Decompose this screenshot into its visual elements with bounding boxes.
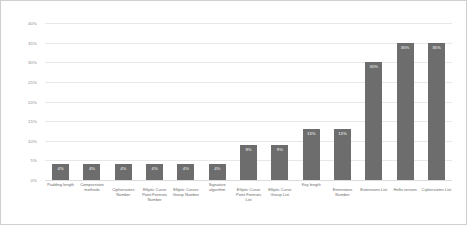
y-axis-tick-label: 30% [28,60,37,65]
bar-slot: 4% [76,23,107,180]
bar-slot: 9% [233,23,264,180]
x-axis-tick-label: Compression methods [76,182,107,218]
bar[interactable]: 4% [52,164,69,180]
bar[interactable]: 30% [365,62,382,180]
bar-value-label: 13% [338,132,347,136]
x-axis-tick-label: Signature algorithm [202,182,233,218]
bar[interactable]: 9% [240,145,257,180]
x-axis-tick-label: Hello version [389,182,420,218]
bar-value-label: 35% [401,46,410,50]
bar-series: 4%4%4%4%4%4%9%9%13%13%30%35%35% [45,23,452,180]
x-axis-category-labels: Padding lengthCompression methodsCiphers… [45,182,452,218]
bar[interactable]: 4% [146,164,163,180]
bar-chart: 0%5%10%15%20%25%30%35%40% 4%4%4%4%4%4%9%… [0,0,467,225]
gridline [45,180,452,181]
bar[interactable]: 13% [303,129,320,180]
x-axis-tick-label: Elliptic Curve Point Formats Number [139,182,170,218]
bar-value-label: 9% [277,148,283,152]
bar-slot: 13% [327,23,358,180]
bar-value-label: 4% [89,167,95,171]
bar-slot: 35% [389,23,420,180]
bar-value-label: 4% [183,167,189,171]
bar[interactable]: 4% [177,164,194,180]
bar-value-label: 13% [307,132,316,136]
y-axis-tick-label: 40% [28,21,37,26]
x-axis-tick-label: Ciphersuites Number [108,182,139,218]
y-axis: 0%5%10%15%20%25%30%35%40% [1,23,41,180]
bar-slot: 4% [108,23,139,180]
bar-value-label: 30% [370,65,379,69]
bar[interactable]: 4% [115,164,132,180]
x-axis-tick-label: Elliptic Curve Point Formats List [233,182,264,218]
y-axis-tick-label: 10% [28,138,37,143]
bar-slot: 4% [139,23,170,180]
x-axis-tick-label: Elliptic Curve Group List [264,182,295,218]
x-axis-tick-label: Ciphersuites List [421,182,452,218]
bar-slot: 30% [358,23,389,180]
bar-value-label: 4% [152,167,158,171]
y-axis-tick-label: 20% [28,99,37,104]
bar-value-label: 9% [245,148,251,152]
bar-slot: 4% [45,23,76,180]
bar-value-label: 4% [214,167,220,171]
plot-area: 4%4%4%4%4%4%9%9%13%13%30%35%35% [45,23,452,180]
y-axis-tick-label: 5% [31,158,37,163]
y-axis-tick-label: 35% [28,40,37,45]
bar-slot: 9% [264,23,295,180]
bar[interactable]: 35% [397,43,414,180]
x-axis-tick-label: Elliptic Curves Group Number [170,182,201,218]
y-axis-tick-label: 0% [31,178,37,183]
bar[interactable]: 4% [209,164,226,180]
bar-slot: 4% [170,23,201,180]
y-axis-tick-label: 15% [28,119,37,124]
bar-value-label: 4% [120,167,126,171]
bar[interactable]: 9% [271,145,288,180]
bar-value-label: 35% [432,46,441,50]
bar[interactable]: 13% [334,129,351,180]
x-axis-tick-label: Key length [296,182,327,218]
x-axis-tick-label: Extensions List [358,182,389,218]
bar[interactable]: 4% [83,164,100,180]
bar-slot: 4% [202,23,233,180]
x-axis-tick-label: Padding length [45,182,76,218]
bar-value-label: 4% [58,167,64,171]
bar-slot: 13% [296,23,327,180]
bar[interactable]: 35% [428,43,445,180]
x-axis-tick-label: Extensions Number [327,182,358,218]
bar-slot: 35% [421,23,452,180]
y-axis-tick-label: 25% [28,79,37,84]
